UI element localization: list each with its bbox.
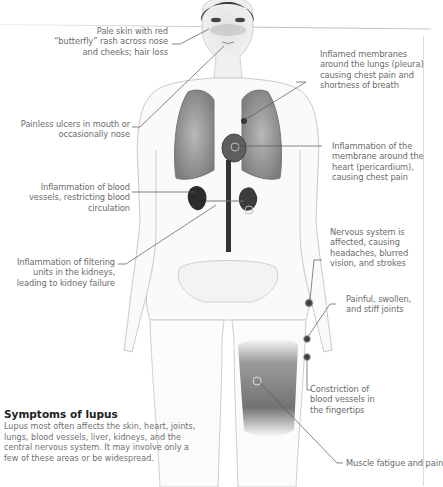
figure-description: Lupus most often affects the skin, heart… xyxy=(4,421,199,463)
head xyxy=(201,0,254,78)
figure-title: Symptoms of lupus xyxy=(4,408,118,420)
label-kidneys: Inflammation of filtering units in the k… xyxy=(2,257,115,288)
pelvis xyxy=(178,261,277,303)
label-blood-vessels: Inflammation of blood vessels, restricti… xyxy=(10,182,130,213)
label-nervous-system: Nervous system is affected, causing head… xyxy=(330,227,426,269)
label-joints: Painful, swollen, and stiff joints xyxy=(346,294,422,315)
label-fingertips: Constriction of blood vessels in the fin… xyxy=(310,384,390,415)
label-pericardium: Inflammation of the membrane around the … xyxy=(332,141,428,183)
label-mouth-ulcers: Painless ulcers in mouth or occasionally… xyxy=(10,119,130,140)
label-pleura: Inflamed membranes around the lungs (ple… xyxy=(320,49,424,91)
label-muscle: Muscle fatigue and pain xyxy=(346,458,426,468)
label-skin-rash: Pale skin with red “butterfly” rash acro… xyxy=(52,26,168,57)
